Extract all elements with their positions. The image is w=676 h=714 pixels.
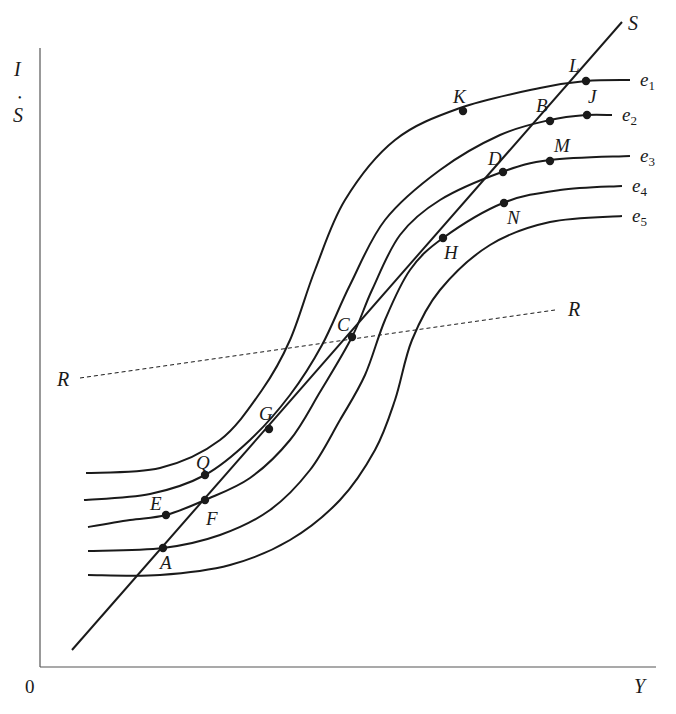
point-l-marker: [582, 77, 590, 85]
point-label-n: N: [506, 207, 521, 228]
point-m-marker: [546, 157, 554, 165]
point-b-marker: [546, 117, 554, 125]
point-label-l: L: [568, 55, 580, 76]
line-s: [72, 22, 622, 650]
line-label-r: R: [567, 298, 580, 320]
point-h-marker: [439, 234, 447, 242]
point-label-b: B: [536, 95, 548, 116]
curve-e3: [88, 156, 630, 527]
point-label-g: G: [259, 403, 273, 424]
point-label-f: F: [205, 508, 218, 529]
line-label-s: S: [628, 12, 638, 34]
x-axis-label: Y: [634, 675, 647, 697]
point-label-j: J: [588, 86, 598, 107]
line-r: [80, 310, 555, 378]
point-f-marker: [201, 496, 209, 504]
point-a-marker: [159, 544, 167, 552]
curve-label-e1: e1: [640, 69, 655, 93]
curve-e1: [86, 80, 630, 473]
point-label-m: M: [553, 135, 571, 156]
economic-diagram: 0 Y I • S e1e2e3e4e5SRRLKBJDMNHCGQEFA: [0, 0, 676, 714]
reference-lines: [72, 22, 622, 650]
curve-label-e3: e3: [640, 145, 655, 169]
y-axis-label-dot: •: [18, 92, 22, 103]
y-axis-label-i: I: [13, 58, 22, 80]
point-label-c: C: [337, 314, 350, 335]
point-label-e: E: [149, 493, 162, 514]
point-k-marker: [459, 107, 467, 115]
curve-e4: [88, 186, 622, 551]
point-j-marker: [583, 111, 591, 119]
curve-e2: [84, 115, 612, 500]
point-label-a: A: [158, 552, 172, 573]
point-label-q: Q: [196, 452, 210, 473]
point-n-marker: [500, 199, 508, 207]
investment-curves: [84, 80, 630, 576]
line-label-r: R: [56, 368, 69, 390]
point-label-h: H: [443, 242, 459, 263]
point-g-marker: [265, 425, 273, 433]
point-label-k: K: [452, 86, 467, 107]
curve-label-e2: e2: [622, 104, 637, 128]
origin-label: 0: [25, 676, 35, 697]
curve-label-e5: e5: [632, 205, 647, 229]
point-d-marker: [499, 168, 507, 176]
point-label-d: D: [487, 148, 502, 169]
y-axis-label-s: S: [13, 104, 23, 126]
labels: e1e2e3e4e5SRRLKBJDMNHCGQEFA: [56, 12, 655, 573]
curve-label-e4: e4: [632, 175, 647, 199]
point-e-marker: [162, 511, 170, 519]
